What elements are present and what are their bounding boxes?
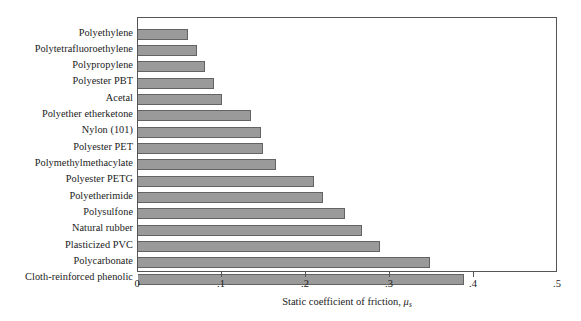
- bar: [138, 241, 380, 252]
- bar: [138, 61, 205, 72]
- bar: [138, 257, 430, 268]
- bar: [138, 176, 314, 187]
- bar-row: [138, 26, 558, 42]
- mu-subscript: s: [409, 300, 412, 309]
- bar-row: [138, 173, 558, 189]
- bar: [138, 78, 214, 89]
- category-label: Acetal: [106, 92, 133, 103]
- category-label: Polyether etherketone: [42, 108, 133, 119]
- bar-row: [138, 206, 558, 222]
- bar-row: [138, 140, 558, 156]
- bar-row: [138, 75, 558, 91]
- category-label: Polyethylene: [79, 27, 133, 38]
- bar-row: [138, 222, 558, 238]
- category-label: Polysulfone: [83, 206, 133, 217]
- category-label: Polypropylene: [72, 59, 133, 70]
- category-label: Polycarbonate: [73, 255, 133, 266]
- bar-row: [138, 255, 558, 271]
- x-axis-title-text: Static coefficient of friction,: [282, 296, 403, 307]
- x-axis-tick-labels: 0.1.2.3.4.5: [137, 277, 557, 291]
- bar: [138, 143, 263, 154]
- bar: [138, 45, 197, 56]
- bar-row: [138, 124, 558, 140]
- category-label: Polytetrafluoroethylene: [35, 43, 133, 54]
- x-axis-title: Static coefficient of friction, μs: [137, 296, 557, 309]
- category-label: Cloth-reinforced phenolic: [25, 271, 133, 282]
- x-tick-label: .3: [385, 277, 393, 290]
- bar-row: [138, 42, 558, 58]
- bar-row: [138, 91, 558, 107]
- bar-row: [138, 108, 558, 124]
- category-label: Polymethylmethacylate: [35, 157, 133, 168]
- category-axis-labels: PolyethylenePolytetrafluoroethylenePolyp…: [0, 17, 133, 272]
- category-label: Polyetherimide: [69, 190, 133, 201]
- category-label: Nylon (101): [82, 124, 133, 135]
- category-label: Polyester PBT: [73, 75, 133, 86]
- bar: [138, 225, 362, 236]
- x-tick-label: .1: [217, 277, 225, 290]
- x-tick-label: .5: [553, 277, 561, 290]
- plot-area: [137, 17, 557, 272]
- bar-chart-figure: PolyethylenePolytetrafluoroethylenePolyp…: [0, 0, 581, 321]
- bar-row: [138, 238, 558, 254]
- category-label: Natural rubber: [72, 222, 133, 233]
- category-label: Polyester PET: [73, 141, 133, 152]
- bar-row: [138, 189, 558, 205]
- x-tick-label: .2: [301, 277, 309, 290]
- category-label: Plasticized PVC: [65, 239, 133, 250]
- bar: [138, 94, 222, 105]
- bar: [138, 208, 345, 219]
- x-tick-label: 0: [134, 277, 139, 290]
- bar: [138, 127, 261, 138]
- bar: [138, 29, 188, 40]
- bar-row: [138, 157, 558, 173]
- x-tick-label: .4: [469, 277, 477, 290]
- bar: [138, 110, 251, 121]
- bar-row: [138, 59, 558, 75]
- bar: [138, 159, 276, 170]
- bar: [138, 192, 323, 203]
- category-label: Polyester PETG: [66, 173, 133, 184]
